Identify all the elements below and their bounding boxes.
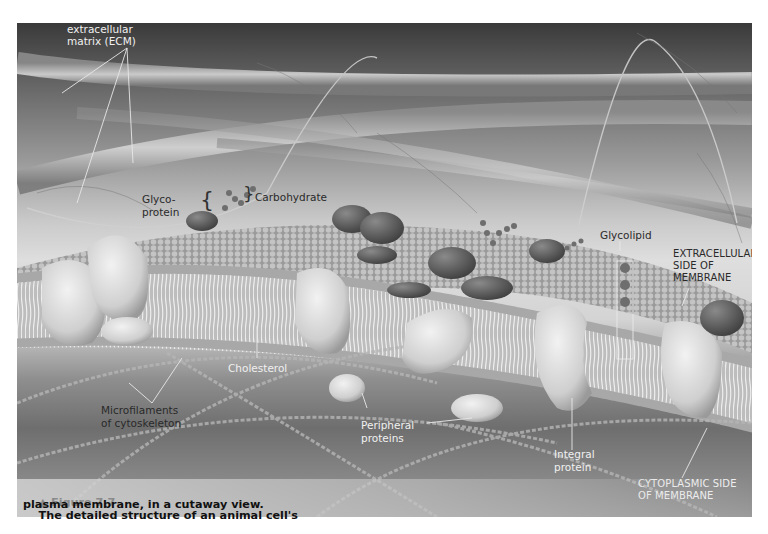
label-peripheral-proteins: Peripheral proteins — [361, 419, 414, 444]
brace-carbohydrate: } — [243, 185, 254, 203]
membrane-illustration: Fibers of extracellular matrix (ECM) Gly… — [17, 23, 752, 517]
label-microfilaments: Microfilaments of cytoskeleton — [101, 404, 181, 429]
figure-caption: ▲ Figure 7.7 The detailed structure of a… — [17, 479, 752, 517]
label-extracellular-side: EXTRACELLULAR SIDE OF MEMBRANE — [673, 248, 752, 284]
label-glycolipid: Glycolipid — [600, 229, 652, 242]
label-glycoprotein: Glyco- protein — [142, 193, 179, 218]
label-cholesterol: Cholesterol — [228, 362, 287, 375]
ecm-fibers — [17, 39, 752, 233]
label-ecm-fibers: Fibers of extracellular matrix (ECM) — [67, 23, 136, 48]
label-carbohydrate: Carbohydrate — [255, 191, 327, 204]
label-integral-protein: Integral protein — [554, 448, 595, 473]
caption-line-2: plasma membrane, in a cutaway view. — [23, 498, 264, 511]
brace-glycoprotein: { — [200, 189, 214, 211]
